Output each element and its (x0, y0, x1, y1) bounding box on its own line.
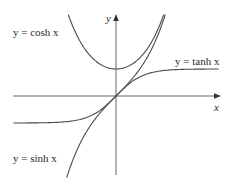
x-axis-arrow-icon (214, 93, 221, 99)
y-axis-label: y (105, 12, 111, 24)
sinh-label: y = sinh x (13, 152, 57, 164)
tanh-label: y = tanh x (175, 55, 220, 67)
hyperbolic-functions-chart: y = cosh x y = tanh x y = sinh x x y (0, 0, 231, 185)
x-axis-label: x (213, 101, 219, 113)
y-axis-arrow-icon (113, 14, 119, 21)
cosh-label: y = cosh x (13, 26, 59, 38)
